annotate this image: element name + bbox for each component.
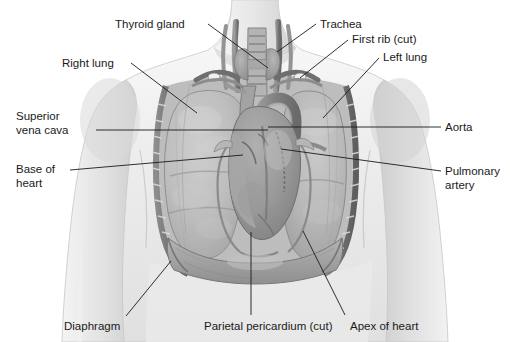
label-left-lung: Left lung bbox=[383, 51, 427, 65]
central-tendon bbox=[227, 254, 283, 270]
label-superior-vena-cava: Superiorvena cava bbox=[16, 110, 68, 137]
label-trachea: Trachea bbox=[320, 18, 362, 32]
anatomy-figure: Thyroid glandTracheaFirst rib (cut)Right… bbox=[0, 0, 510, 342]
left-deltoid-shadow bbox=[370, 78, 430, 162]
label-aorta: Aorta bbox=[445, 121, 473, 135]
label-right-lung: Right lung bbox=[62, 57, 114, 71]
thoracic-cavity-illustration bbox=[0, 0, 510, 342]
label-parietal-pericardium: Parietal pericardium (cut) bbox=[204, 320, 332, 334]
right-deltoid-shadow bbox=[80, 78, 140, 162]
label-base-of-heart: Base ofheart bbox=[16, 163, 55, 190]
label-diaphragm: Diaphragm bbox=[64, 320, 120, 334]
label-thyroid-gland: Thyroid gland bbox=[115, 18, 185, 32]
label-apex-of-heart: Apex of heart bbox=[350, 320, 418, 334]
label-pulmonary-artery: Pulmonaryartery bbox=[445, 165, 500, 192]
thyroid-isthmus bbox=[248, 60, 266, 70]
label-first-rib-cut: First rib (cut) bbox=[352, 33, 417, 47]
